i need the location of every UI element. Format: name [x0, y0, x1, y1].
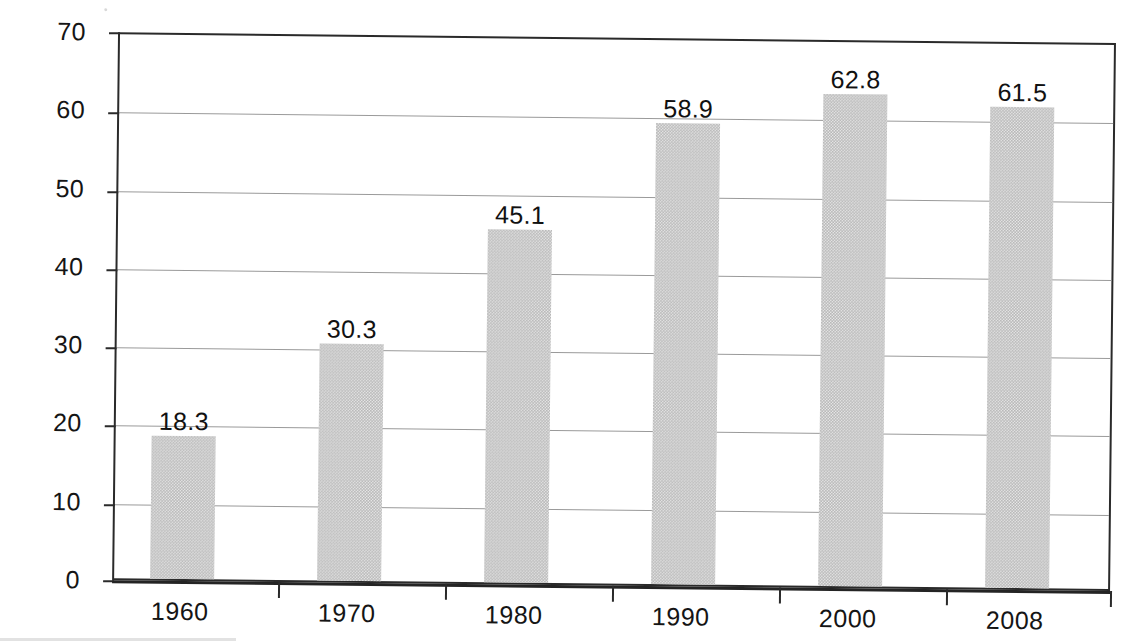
y-tick-mark-70	[109, 32, 120, 34]
y-tick-label-20: 20	[53, 409, 82, 438]
x-label-1990: 1990	[652, 602, 710, 632]
scanned-page: Percent Participation 0 10 20 30 40 50 6…	[0, 0, 1127, 644]
x-label-1970: 1970	[318, 598, 376, 628]
x-label-1980: 1980	[485, 600, 543, 630]
y-tick-label-50: 50	[55, 174, 84, 203]
value-label-1960: 18.3	[159, 406, 209, 436]
x-tick-mark-4	[779, 587, 781, 603]
bar-2008[interactable]	[985, 106, 1054, 588]
bar-1970[interactable]	[317, 343, 384, 581]
gridline-60	[119, 113, 1113, 125]
y-tick-label-60: 60	[56, 95, 85, 124]
y-tick-mark-20	[105, 426, 116, 428]
bar-1990[interactable]	[651, 123, 720, 585]
value-label-2008: 61.5	[997, 77, 1047, 107]
y-tick-label-70: 70	[57, 17, 86, 46]
y-tick-label-30: 30	[54, 330, 83, 359]
bar-1980[interactable]	[484, 229, 552, 583]
x-tick-mark-6	[1110, 591, 1112, 607]
gridline-40	[117, 269, 1111, 281]
y-tick-mark-30	[106, 347, 117, 349]
gridline-50	[118, 191, 1112, 203]
x-tick-mark-2	[445, 584, 447, 600]
bar-1960[interactable]	[150, 435, 216, 579]
y-axis-tick-labels: 0 10 20 30 40 50 60 70	[0, 31, 104, 580]
x-label-2008: 2008	[986, 606, 1044, 636]
scan-speck	[104, 8, 107, 11]
gridline-10	[115, 504, 1109, 516]
gridline-30	[117, 347, 1111, 359]
x-label-1960: 1960	[151, 597, 209, 627]
y-tick-label-40: 40	[55, 252, 84, 281]
gridline-20	[116, 426, 1110, 438]
value-label-1970: 30.3	[327, 314, 377, 344]
x-tick-mark-1	[278, 582, 280, 598]
y-tick-mark-50	[107, 191, 118, 193]
plot-area: 18.3 30.3 45.1 58.9 62.8 61.5	[112, 32, 1116, 591]
y-tick-label-0: 0	[66, 565, 81, 594]
x-tick-mark-5	[946, 589, 948, 605]
scan-edge-artifact	[0, 638, 236, 641]
y-tick-mark-40	[106, 269, 117, 271]
chart-figure: Percent Participation 0 10 20 30 40 50 6…	[0, 0, 1127, 644]
x-tick-mark-3	[612, 586, 614, 602]
bar-2000[interactable]	[818, 94, 887, 586]
x-label-2000: 2000	[819, 604, 877, 634]
y-tick-mark-60	[108, 112, 119, 114]
value-label-1980: 45.1	[495, 200, 545, 230]
y-tick-label-10: 10	[52, 487, 81, 516]
y-tick-mark-10	[104, 504, 115, 506]
value-label-2000: 62.8	[830, 65, 880, 95]
value-label-1990: 58.9	[663, 94, 713, 124]
